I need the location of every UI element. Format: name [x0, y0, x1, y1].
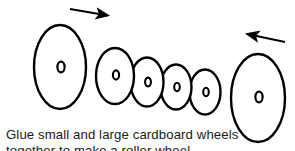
- wheel-3-hub-hole: [145, 78, 151, 87]
- wheel-5-hub-hole: [203, 88, 209, 96]
- caption-line-2: together to make a roller wheel: [6, 143, 295, 151]
- diagram-page: Glue small and large cardboard wheels to…: [0, 0, 295, 151]
- wheel-5-small: [190, 70, 221, 115]
- wheel-1-hub-hole: [57, 62, 64, 73]
- caption-line-1: Glue small and large cardboard wheels: [6, 127, 295, 143]
- wheel-2-hub-hole: [113, 70, 119, 79]
- arrow-left-icon: [247, 34, 285, 42]
- wheel-3-small: [131, 58, 164, 107]
- wheel-4-small: [161, 65, 192, 110]
- caption: Glue small and large cardboard wheels to…: [6, 127, 295, 151]
- wheel-1-large: [34, 25, 86, 109]
- wheel-2-medium: [96, 48, 134, 104]
- wheel-4-hub-hole: [174, 83, 180, 91]
- arrow-right-icon: [70, 9, 108, 16]
- wheel-6-hub-hole: [255, 92, 262, 103]
